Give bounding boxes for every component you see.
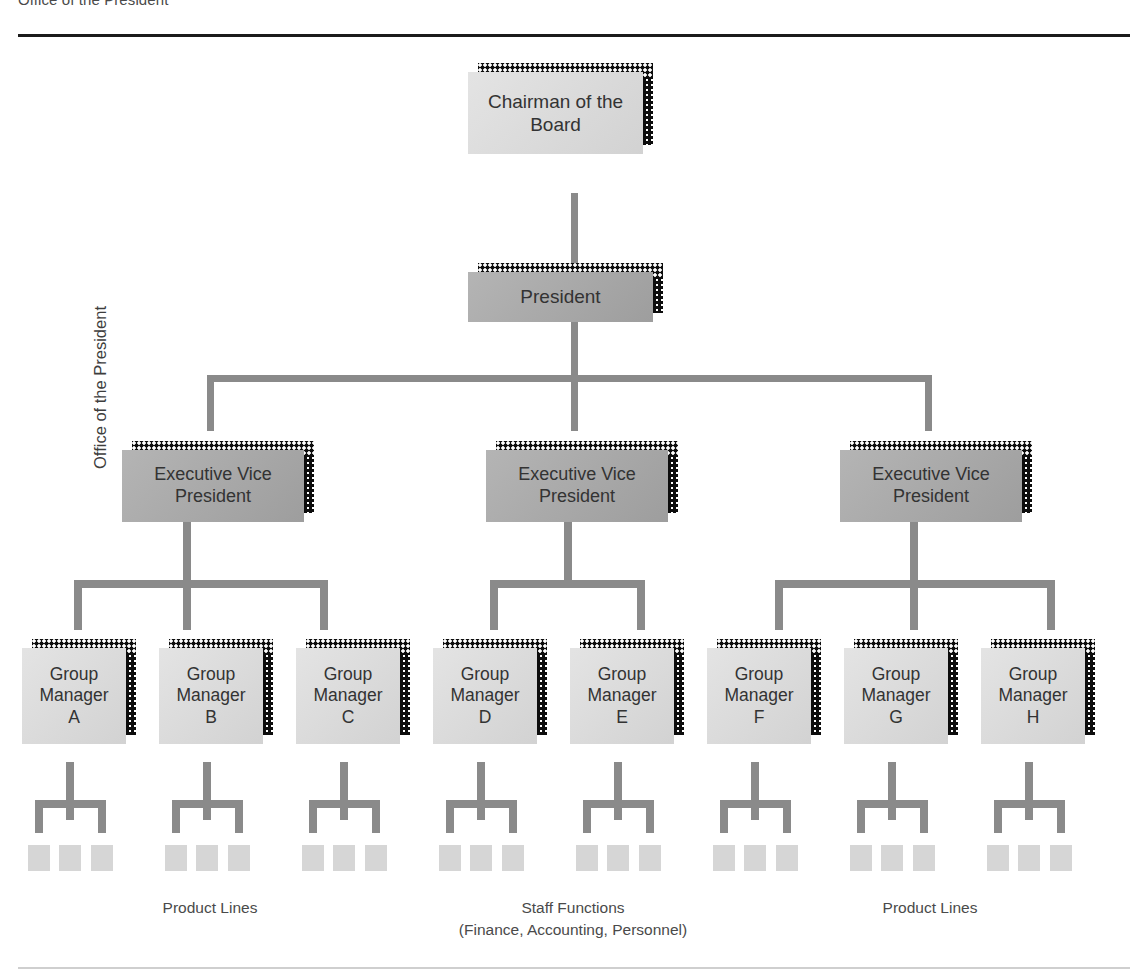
connector-drop-evp3 (925, 375, 932, 431)
gmE-line-2: Manager (587, 685, 656, 705)
leaf-drop-g1 (857, 800, 865, 833)
caption-product-lines-left: Product Lines (110, 897, 310, 919)
president-line-1: President (520, 285, 600, 308)
node-chairman-of-the-board[interactable]: Chairman of the Board (468, 72, 643, 154)
node-group-manager-c[interactable]: Group Manager C (296, 648, 400, 744)
connector-drop-gmH (1047, 580, 1055, 630)
connector-evp2-busbar (490, 580, 645, 588)
connector-drop-gmD (490, 580, 498, 630)
leaf-square-e3 (639, 845, 661, 871)
leaf-square-d3 (502, 845, 524, 871)
evp1-line-1: Executive Vice (154, 464, 272, 484)
org-chart-page: Office of the President Office of the Pr… (0, 0, 1147, 980)
gmG-line-1: Group (872, 664, 921, 684)
gmA-line-1: Group (50, 664, 99, 684)
gmC-line-3: C (342, 707, 355, 727)
leaf-stem-f (751, 762, 759, 820)
node-group-manager-h[interactable]: Group Manager H (981, 648, 1085, 744)
node-label: Group Manager E (570, 648, 674, 744)
leaf-square-h2 (1018, 845, 1040, 871)
gmH-line-1: Group (1009, 664, 1058, 684)
gmF-line-2: Manager (724, 685, 793, 705)
node-group-manager-d[interactable]: Group Manager D (433, 648, 537, 744)
node-label: Group Manager F (707, 648, 811, 744)
node-label: Group Manager B (159, 648, 263, 744)
leaf-stem-c (340, 762, 348, 820)
gmH-line-2: Manager (998, 685, 1067, 705)
leaf-drop-d3 (509, 800, 517, 833)
node-label: Group Manager H (981, 648, 1085, 744)
leaf-drop-c1 (309, 800, 317, 833)
gmA-line-3: A (68, 707, 80, 727)
leaf-square-d1 (439, 845, 461, 871)
leaf-busbar-e (583, 800, 654, 808)
connector-evp-busbar (207, 375, 932, 382)
evp2-line-1: Executive Vice (518, 464, 636, 484)
leaf-busbar-b (172, 800, 243, 808)
node-group-manager-b[interactable]: Group Manager B (159, 648, 263, 744)
node-executive-vice-president-1[interactable]: Executive Vice President (122, 450, 304, 522)
leaf-stem-h (1025, 762, 1033, 820)
leaf-square-h1 (987, 845, 1009, 871)
node-executive-vice-president-2[interactable]: Executive Vice President (486, 450, 668, 522)
connector-drop-gmF (775, 580, 783, 630)
gmD-line-3: D (479, 707, 492, 727)
node-group-manager-f[interactable]: Group Manager F (707, 648, 811, 744)
gmG-line-2: Manager (861, 685, 930, 705)
leaf-square-a3 (91, 845, 113, 871)
leaf-drop-b1 (172, 800, 180, 833)
node-group-manager-g[interactable]: Group Manager G (844, 648, 948, 744)
node-label: Group Manager C (296, 648, 400, 744)
gmC-line-1: Group (324, 664, 373, 684)
leaf-square-b3 (228, 845, 250, 871)
connector-drop-gmB (183, 580, 191, 630)
gmD-line-1: Group (461, 664, 510, 684)
leaf-stem-g (888, 762, 896, 820)
leaf-square-f3 (776, 845, 798, 871)
caption-staff-functions-line-1: Staff Functions (521, 899, 624, 916)
gmE-line-3: E (616, 707, 628, 727)
leaf-square-a1 (28, 845, 50, 871)
gmB-line-3: B (205, 707, 217, 727)
leaf-stem-a (66, 762, 74, 820)
caption-staff-functions-line-2: (Finance, Accounting, Personnel) (459, 921, 687, 938)
connector-evp1-stem (183, 522, 191, 585)
evp2-line-2: President (539, 486, 615, 506)
node-president[interactable]: President (468, 272, 653, 322)
chairman-line-2: Board (530, 114, 581, 135)
gmD-line-2: Manager (450, 685, 519, 705)
connector-evp3-stem (910, 522, 918, 585)
node-label: Executive Vice President (486, 450, 668, 522)
leaf-busbar-a (35, 800, 106, 808)
leaf-drop-g3 (920, 800, 928, 833)
gmC-line-2: Manager (313, 685, 382, 705)
leaf-square-e1 (576, 845, 598, 871)
leaf-drop-h1 (994, 800, 1002, 833)
node-label: Group Manager G (844, 648, 948, 744)
leaf-stem-e (614, 762, 622, 820)
gmE-line-1: Group (598, 664, 647, 684)
connector-president-stem (571, 322, 578, 379)
leaf-square-h3 (1050, 845, 1072, 871)
connector-chairman-president (571, 193, 578, 266)
leaf-square-f1 (713, 845, 735, 871)
leaf-drop-h3 (1057, 800, 1065, 833)
node-group-manager-a[interactable]: Group Manager A (22, 648, 126, 744)
evp3-line-1: Executive Vice (872, 464, 990, 484)
node-executive-vice-president-3[interactable]: Executive Vice President (840, 450, 1022, 522)
caption-product-lines-right: Product Lines (830, 897, 1030, 919)
leaf-square-c1 (302, 845, 324, 871)
node-group-manager-e[interactable]: Group Manager E (570, 648, 674, 744)
connector-evp2-stem (564, 522, 572, 585)
leaf-drop-d1 (446, 800, 454, 833)
leaf-drop-a3 (98, 800, 106, 833)
footer-divider (18, 967, 1130, 969)
leaf-drop-f1 (720, 800, 728, 833)
node-label: Group Manager A (22, 648, 126, 744)
leaf-square-b2 (196, 845, 218, 871)
gmB-line-2: Manager (176, 685, 245, 705)
leaf-stem-d (477, 762, 485, 820)
node-label: Chairman of the Board (468, 72, 643, 154)
leaf-square-g1 (850, 845, 872, 871)
leaf-square-a2 (59, 845, 81, 871)
